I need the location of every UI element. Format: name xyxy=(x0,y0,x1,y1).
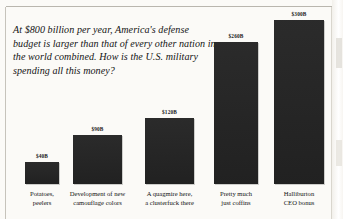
bar-column: $90B Development of new camouflage color… xyxy=(73,0,122,219)
page-edge-mark-bottom xyxy=(336,140,342,166)
bar-column: $40B Potatoes, peelers xyxy=(25,0,59,219)
bar-rect xyxy=(25,162,59,184)
bar-value-label: $40B xyxy=(25,153,59,159)
bar-category-label: A quagmire here, a clusterfuck there xyxy=(132,190,207,207)
bar-category-line-2: CEO bonus xyxy=(261,199,337,208)
bar-category-line-1: Development of new xyxy=(60,190,135,199)
bar-rect xyxy=(214,42,258,184)
bar-category-line-2: camouflage colors xyxy=(60,199,135,208)
bar-value-label: $90B xyxy=(73,126,122,132)
bar-rect xyxy=(145,118,194,184)
bar-column: $120B A quagmire here, a clusterfuck the… xyxy=(145,0,194,219)
bar-category-label: Development of new camouflage colors xyxy=(60,190,135,207)
page-edge-mark-top xyxy=(336,38,342,68)
bar-category-line-1: Halliburton xyxy=(261,190,337,199)
page-edge-shading xyxy=(332,0,343,219)
bar-column: $300B Halliburton CEO bonus xyxy=(274,0,324,219)
bar-value-label: $260B xyxy=(214,33,258,39)
bar-rect xyxy=(73,135,122,184)
page-left-rule xyxy=(5,7,6,219)
bar-category-label: Halliburton CEO bonus xyxy=(261,190,337,207)
bar-rect xyxy=(274,20,324,184)
bar-value-label: $300B xyxy=(274,11,324,17)
bar-category-line-1: A quagmire here, xyxy=(132,190,207,199)
page-canvas: At $800 billion per year, America's defe… xyxy=(0,0,343,219)
bar-value-label: $120B xyxy=(145,109,194,115)
bar-chart: $40B Potatoes, peelers $90B Development … xyxy=(9,0,331,219)
bar-category-line-2: a clusterfuck there xyxy=(132,199,207,208)
bar-column: $260B Pretty much just coffins xyxy=(214,0,258,219)
